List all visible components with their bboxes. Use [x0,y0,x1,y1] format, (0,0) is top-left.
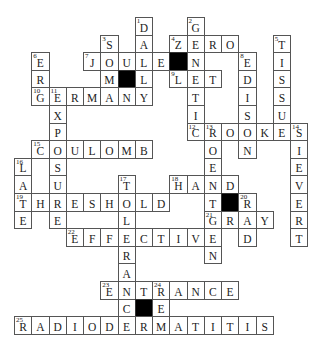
crossword-cell[interactable]: 14S [290,123,308,142]
crossword-cell[interactable]: M [118,140,136,159]
crossword-cell[interactable]: F [100,228,118,247]
crossword-cell[interactable]: 2G [187,17,205,36]
crossword-cell[interactable]: E [152,299,170,318]
crossword-cell[interactable]: I [187,105,205,124]
crossword-cell[interactable]: T [204,193,222,212]
crossword-cell[interactable]: I [290,140,308,159]
crossword-cell[interactable]: U [49,175,67,194]
crossword-cell[interactable]: R [118,246,136,265]
crossword-cell[interactable]: A [169,316,187,335]
crossword-cell[interactable]: O [100,140,118,159]
crossword-cell[interactable]: K [256,123,274,142]
crossword-cell[interactable]: T [221,316,239,335]
crossword-cell[interactable]: O [238,123,256,142]
crossword-cell[interactable]: S [49,158,67,177]
crossword-cell[interactable]: O [118,193,136,212]
crossword-cell[interactable]: V [187,228,205,247]
crossword-cell[interactable]: M [152,316,170,335]
crossword-cell[interactable]: X [49,105,67,124]
crossword-cell[interactable]: 15C [31,140,49,159]
crossword-cell[interactable]: T [290,228,308,247]
crossword-cell[interactable]: 5T [273,35,291,54]
crossword-cell[interactable]: M [100,70,118,89]
crossword-cell[interactable]: C [204,281,222,300]
crossword-cell[interactable]: A [100,87,118,106]
crossword-cell[interactable]: 23E [100,281,118,300]
crossword-cell[interactable]: I [273,52,291,71]
crossword-cell[interactable]: E [118,228,136,247]
crossword-cell[interactable]: S [256,316,274,335]
crossword-cell[interactable]: N [118,281,136,300]
crossword-cell[interactable]: T [204,70,222,89]
crossword-cell[interactable]: 4Z [169,35,187,54]
crossword-cell[interactable]: S [273,70,291,89]
crossword-cell[interactable]: 10G [31,87,49,106]
crossword-cell[interactable]: E [204,228,222,247]
crossword-cell[interactable]: I [66,316,84,335]
crossword-cell[interactable]: Y [135,87,153,106]
crossword-cell[interactable]: E [290,193,308,212]
crossword-cell[interactable]: E [221,281,239,300]
crossword-cell[interactable]: O [221,123,239,142]
crossword-cell[interactable]: O [49,140,67,159]
crossword-cell[interactable]: 7J [83,52,101,71]
crossword-cell[interactable]: O [83,316,101,335]
crossword-cell[interactable]: E [290,158,308,177]
crossword-cell[interactable]: B [135,140,153,159]
crossword-cell[interactable]: E [118,316,136,335]
crossword-cell[interactable]: A [187,175,205,194]
crossword-cell[interactable]: N [204,175,222,194]
crossword-cell[interactable]: N [204,246,222,265]
crossword-cell[interactable]: T [152,228,170,247]
crossword-cell[interactable]: 13R [204,123,222,142]
crossword-cell[interactable]: S [273,87,291,106]
crossword-cell[interactable]: V [290,175,308,194]
crossword-cell[interactable]: S [238,105,256,124]
crossword-cell[interactable]: E [66,193,84,212]
crossword-cell[interactable]: 21G [204,211,222,230]
crossword-cell[interactable]: 22E [66,228,84,247]
crossword-cell[interactable]: M [83,87,101,106]
crossword-cell[interactable]: S [83,193,101,212]
crossword-cell[interactable]: 11E [49,87,67,106]
crossword-cell[interactable]: 12C [187,123,205,142]
crossword-cell[interactable]: 3S [100,35,118,54]
crossword-cell[interactable]: O [221,35,239,54]
crossword-cell[interactable]: 8E [238,52,256,71]
crossword-cell[interactable]: E [187,35,205,54]
crossword-cell[interactable]: I [204,316,222,335]
crossword-cell[interactable]: D [152,193,170,212]
crossword-cell[interactable]: I [169,228,187,247]
crossword-cell[interactable]: D [221,175,239,194]
crossword-cell[interactable]: L [135,52,153,71]
crossword-cell[interactable]: Y [256,211,274,230]
crossword-cell[interactable]: A [135,35,153,54]
crossword-cell[interactable]: T [187,316,205,335]
crossword-cell[interactable]: 18H [169,175,187,194]
crossword-cell[interactable]: 6E [31,52,49,71]
crossword-cell[interactable]: A [14,175,32,194]
crossword-cell[interactable]: L [135,70,153,89]
crossword-cell[interactable]: 1D [135,17,153,36]
crossword-cell[interactable]: L [118,211,136,230]
crossword-cell[interactable]: E [187,70,205,89]
crossword-cell[interactable]: N [238,140,256,159]
crossword-cell[interactable]: H [100,193,118,212]
crossword-cell[interactable]: U [66,140,84,159]
crossword-cell[interactable]: D [49,316,67,335]
crossword-cell[interactable]: A [118,263,136,282]
crossword-cell[interactable]: R [290,211,308,230]
crossword-cell[interactable]: 17T [118,175,136,194]
crossword-cell[interactable]: T [187,87,205,106]
crossword-cell[interactable]: 16L [14,158,32,177]
crossword-cell[interactable]: E [152,52,170,71]
crossword-cell[interactable]: R [49,193,67,212]
crossword-cell[interactable]: C [135,228,153,247]
crossword-cell[interactable]: C [118,299,136,318]
crossword-cell[interactable]: R [204,35,222,54]
crossword-cell[interactable]: R [31,70,49,89]
crossword-cell[interactable]: A [169,281,187,300]
crossword-cell[interactable]: A [238,211,256,230]
crossword-cell[interactable]: L [135,193,153,212]
crossword-cell[interactable]: R [221,211,239,230]
